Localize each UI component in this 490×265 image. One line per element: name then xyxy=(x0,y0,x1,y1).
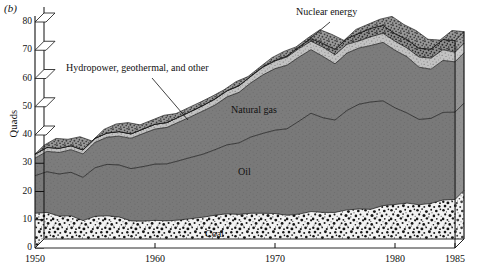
side-face-oil xyxy=(455,103,464,199)
y-tick-40 xyxy=(35,126,55,135)
y-tick-70 xyxy=(35,41,55,50)
y-tick-60 xyxy=(35,70,55,79)
x-axis-base xyxy=(35,239,464,248)
hydro-leader xyxy=(152,78,188,120)
side-face-natural xyxy=(455,53,464,112)
y-tick-80 xyxy=(35,13,55,22)
energy-consumption-area-chart xyxy=(0,0,490,265)
stacked-area-layers xyxy=(35,16,464,248)
y-tick-50 xyxy=(35,98,55,107)
